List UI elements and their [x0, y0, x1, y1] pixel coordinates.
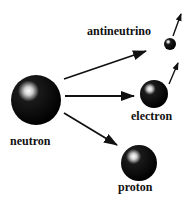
- neutron-label: neutron: [10, 135, 50, 147]
- proton-label: proton: [118, 181, 152, 193]
- arrow-antineutrino-to-motion-icon: [173, 14, 181, 36]
- antineutrino-label: antineutrino: [87, 25, 151, 37]
- beta-decay-diagram: neutron electron proton antineutrino: [0, 0, 192, 203]
- neutron-sphere-icon: [11, 75, 61, 125]
- arrow-neutron-to-antineutrino-icon: [64, 51, 146, 79]
- arrow-electron-to-motion-icon: [169, 63, 178, 84]
- electron-sphere-icon: [140, 80, 168, 108]
- antineutrino-sphere-icon: [164, 38, 176, 50]
- proton-sphere-icon: [121, 145, 157, 181]
- electron-label: electron: [131, 110, 172, 122]
- arrow-neutron-to-proton-icon: [64, 113, 117, 145]
